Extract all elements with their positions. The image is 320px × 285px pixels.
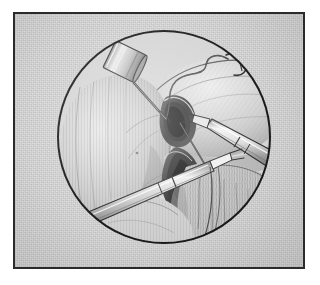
surgical-scene-drawing <box>54 27 274 247</box>
scene-name: laparoscopic-suturing-of-hiatal-defect <box>0 0 1 1</box>
figure-root: Laparoscopic surgical view laparoscopic-… <box>0 0 320 285</box>
figure-caption <box>0 0 1 1</box>
figure-title: Laparoscopic surgical view <box>0 0 1 1</box>
endoscope-circular-viewport <box>54 27 274 247</box>
scope-field-contents <box>54 27 274 247</box>
illustration-plate-frame <box>13 12 305 269</box>
